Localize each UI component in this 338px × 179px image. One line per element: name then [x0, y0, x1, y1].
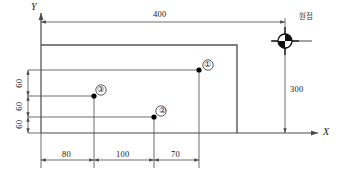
dimension-label-400: 400	[153, 10, 166, 19]
x-axis-label: X	[323, 127, 329, 137]
origin-symbol	[271, 27, 299, 55]
workpiece-outline	[41, 45, 237, 133]
dimension-label-60-bottom: 60	[15, 118, 24, 130]
dimension-label-80: 80	[62, 150, 71, 159]
origin-label: 원점	[299, 13, 313, 21]
dimension-label-60-mid: 60	[15, 100, 24, 112]
dimension-label-300: 300	[290, 85, 303, 94]
dimension-label-100: 100	[116, 150, 129, 159]
dimension-60-stack	[28, 70, 41, 133]
technical-drawing-svg	[0, 0, 338, 179]
point-label-3: ③	[97, 86, 104, 94]
point-label-2: ②	[159, 107, 166, 115]
y-axis-label: Y	[31, 2, 37, 12]
dimension-label-70: 70	[171, 150, 180, 159]
point-leader-lines	[28, 70, 199, 117]
point-label-1: ①	[204, 61, 211, 69]
dimension-label-60-top: 60	[15, 77, 24, 89]
drawing-canvas: Y X 원점 400 300 60 60 60 80 100 70 ① ② ③	[0, 0, 338, 179]
dimension-400	[41, 18, 285, 40]
